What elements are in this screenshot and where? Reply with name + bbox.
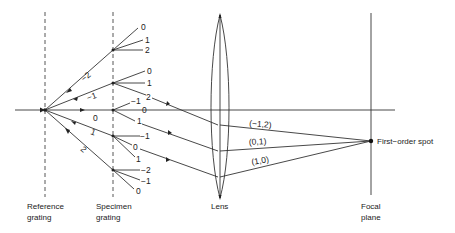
- ref-order-label: 0: [93, 113, 98, 123]
- spec-order-label: 0: [141, 22, 146, 32]
- moire-diffraction-diagram: −2 −1 0 1 2 0 1 2 0 1 2 −1 0 1: [0, 0, 455, 233]
- lens-label: Lens: [211, 202, 228, 211]
- spec-order-label: 1: [137, 116, 142, 126]
- spec-order-label: 0: [136, 186, 141, 196]
- beam-label: (1,0): [251, 154, 270, 167]
- beam-label: (−1,2): [249, 118, 272, 130]
- spec-order-label: 1: [136, 154, 141, 164]
- specimen-grating-label: Specimen: [96, 202, 132, 211]
- spec-order-label: 2: [146, 92, 151, 102]
- spec-order-label: −1: [141, 176, 151, 186]
- specimen-branch-1: [112, 28, 144, 52]
- beam-minus1-2: [220, 125, 371, 141]
- first-order-spot-dot: [369, 139, 373, 143]
- ref-order-label: −1: [85, 90, 98, 103]
- ref-order-label: −2: [79, 69, 93, 83]
- specimen-branch-4: [112, 135, 219, 178]
- beam-label: (0,1): [249, 136, 267, 147]
- specimen-grating-label: grating: [96, 213, 120, 222]
- spec-order-label: 0: [147, 66, 152, 76]
- focal-plane-label: plane: [361, 213, 381, 222]
- spec-order-label: −1: [131, 96, 141, 106]
- reference-grating-label: Reference: [27, 202, 64, 211]
- spec-order-label: 0: [133, 142, 138, 152]
- spec-order-label: 0: [142, 105, 147, 115]
- reference-grating-label: grating: [27, 213, 51, 222]
- lens-bottom-tip-icon: [219, 195, 222, 200]
- spec-order-label: −2: [141, 165, 151, 175]
- first-order-spot-label: First−order spot: [377, 137, 434, 146]
- spec-order-label: 1: [147, 78, 152, 88]
- focal-plane-label: Focal: [361, 202, 381, 211]
- ref-order-label: 1: [89, 126, 97, 137]
- ref-order-label: 2: [79, 144, 89, 155]
- spec-order-label: −1: [140, 131, 150, 141]
- spec-order-label: 1: [145, 35, 150, 45]
- lens-top-tip-icon: [219, 13, 222, 18]
- spec-order-label: 2: [145, 45, 150, 55]
